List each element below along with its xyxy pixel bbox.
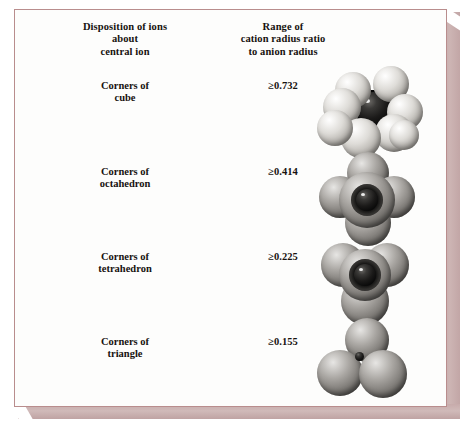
figure-card: Disposition of ions about central ion Ra… (14, 9, 447, 407)
triangle-coordination-model (313, 312, 445, 402)
row-label-line1: Corners of (35, 80, 215, 92)
column-header-range: Range of cation radius ratio to anion ra… (193, 21, 373, 58)
cube-anion-sphere (317, 110, 353, 146)
row-label-line2: octahedron (35, 178, 215, 190)
tetrahedron-central-cation-sphere (354, 264, 376, 286)
row-label-line2: triangle (35, 348, 215, 360)
row-label-line2: cube (35, 92, 215, 104)
column-header-disposition-line1: Disposition of ions (35, 21, 215, 33)
column-header-range-line3: to anion radius (193, 46, 373, 58)
row-label-line1: Corners of (35, 336, 215, 348)
column-header-range-line1: Range of (193, 21, 373, 33)
octahedron-coordination-model (313, 150, 445, 250)
row-label-tetrahedron: Corners of tetrahedron (35, 251, 215, 276)
cube-anion-sphere (389, 120, 419, 150)
row-label-line2: tetrahedron (35, 263, 215, 275)
column-header-range-line2: cation radius ratio (193, 33, 373, 45)
table-row: Corners of triangle ≥0.155 (15, 336, 448, 422)
row-label-cube: Corners of cube (35, 80, 215, 105)
row-label-octahedron: Corners of octahedron (35, 166, 215, 191)
row-label-line1: Corners of (35, 251, 215, 263)
octahedron-cation-highlight (361, 193, 365, 196)
tetrahedron-cation-highlight (359, 268, 363, 271)
column-header-disposition-line3: central ion (35, 46, 215, 58)
row-label-line1: Corners of (35, 166, 215, 178)
octahedron-central-cation-sphere (356, 189, 378, 211)
row-label-triangle: Corners of triangle (35, 336, 215, 361)
column-header-disposition-line2: about (35, 33, 215, 45)
column-header-disposition: Disposition of ions about central ion (35, 21, 215, 58)
triangle-central-cation-sphere (355, 352, 364, 361)
coordination-table: Disposition of ions about central ion Ra… (15, 10, 448, 408)
figure-plate: Disposition of ions about central ion Ra… (0, 0, 473, 429)
triangle-anion-sphere (359, 350, 407, 398)
